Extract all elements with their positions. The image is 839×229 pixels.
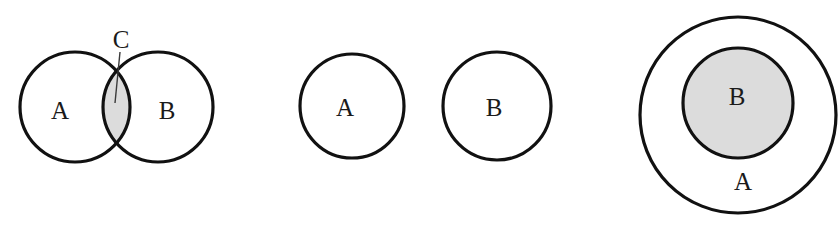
set-diagram-figure: A B C A B B A <box>0 0 839 229</box>
label-a-overlapping: A <box>51 97 69 124</box>
label-a-subset: A <box>734 168 752 195</box>
label-c-intersection: C <box>113 26 130 53</box>
label-b-subset: B <box>729 83 746 110</box>
label-b-disjoint: B <box>486 94 503 121</box>
label-a-disjoint: A <box>336 94 354 121</box>
label-b-overlapping: B <box>159 97 176 124</box>
